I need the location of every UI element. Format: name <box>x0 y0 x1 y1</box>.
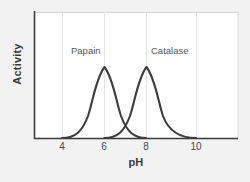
chart-figure: Activity pH 4 6 8 10 Papain Catalase <box>0 0 250 182</box>
x-axis-label: pH <box>34 156 238 168</box>
x-tick-label-6: 6 <box>92 141 116 152</box>
series-label-papain: Papain <box>71 45 101 56</box>
x-tick-label-8: 8 <box>134 141 158 152</box>
x-tick-label-10: 10 <box>184 141 208 152</box>
x-tick-label-4: 4 <box>50 141 74 152</box>
plot-area <box>34 12 238 138</box>
y-axis-label: Activity <box>11 24 23 104</box>
chart-canvas <box>0 0 250 182</box>
series-label-catalase: Catalase <box>151 45 189 56</box>
